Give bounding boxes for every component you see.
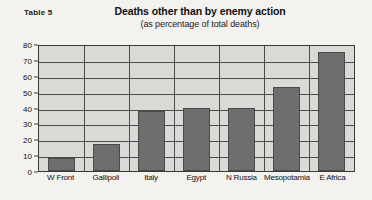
bar[interactable] — [183, 108, 210, 172]
y-axis-tick-label: 50 — [23, 88, 32, 97]
bar-slot — [39, 46, 84, 171]
y-axis-tick-label: 10 — [23, 152, 32, 161]
y-axis-tick-label: 60 — [23, 72, 32, 81]
bar-slot — [129, 46, 174, 171]
x-axis-tick-label: N Russia — [219, 173, 264, 182]
x-axis-tick-label: E Africa — [310, 173, 355, 182]
chart-figure: Table 5 Deaths other than by enemy actio… — [0, 0, 372, 200]
bar-series — [39, 46, 354, 171]
y-axis-tick-label: 80 — [23, 41, 32, 50]
bar-slot — [84, 46, 129, 171]
bar-slot — [309, 46, 354, 171]
bar[interactable] — [228, 108, 255, 172]
y-axis-tick-label: 0 — [28, 168, 32, 177]
bar[interactable] — [318, 52, 345, 171]
y-axis-tick-label: 20 — [23, 136, 32, 145]
bar-slot — [174, 46, 219, 171]
y-axis-tick-label: 70 — [23, 56, 32, 65]
chart-title: Deaths other than by enemy action — [60, 5, 340, 18]
x-axis-tick-label: Gallipoli — [83, 173, 128, 182]
x-axis-tick-label: Italy — [128, 173, 173, 182]
x-axis-tick-label: W Front — [38, 173, 83, 182]
y-axis-tick-label: 30 — [23, 120, 32, 129]
table-label: Table 5 — [24, 8, 52, 17]
bar-slot — [219, 46, 264, 171]
x-axis-tick-label: Egypt — [174, 173, 219, 182]
bar[interactable] — [93, 144, 120, 171]
plot-area — [38, 45, 355, 172]
x-axis: W FrontGallipoliItalyEgyptN RussiaMesopo… — [38, 173, 355, 182]
chart-title-block: Deaths other than by enemy action (as pe… — [60, 5, 340, 30]
y-axis: 01020304050607080 — [0, 45, 38, 172]
bar[interactable] — [273, 87, 300, 171]
bar-slot — [264, 46, 309, 171]
bar[interactable] — [48, 158, 75, 171]
chart-subtitle: (as percentage of total deaths) — [60, 18, 340, 30]
x-axis-tick-label: Mesopotamia — [264, 173, 310, 182]
y-axis-tick-label: 40 — [23, 104, 32, 113]
bar[interactable] — [138, 111, 165, 171]
